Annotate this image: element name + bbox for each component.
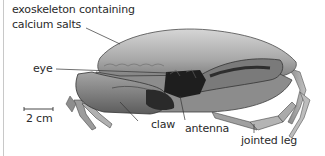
label-antenna: antenna	[185, 122, 229, 135]
label-claw: claw	[151, 118, 175, 131]
label-exoskeleton-line2: calcium salts	[12, 18, 81, 31]
scale-bar-label: 2 cm	[26, 112, 52, 125]
mouthparts	[164, 70, 206, 98]
leader-exoskeleton	[86, 28, 120, 44]
scale-bar	[24, 107, 53, 111]
label-exoskeleton-line1: exoskeleton containing	[12, 3, 135, 16]
label-eye: eye	[33, 62, 52, 75]
label-jointed-leg: jointed leg	[241, 134, 297, 147]
